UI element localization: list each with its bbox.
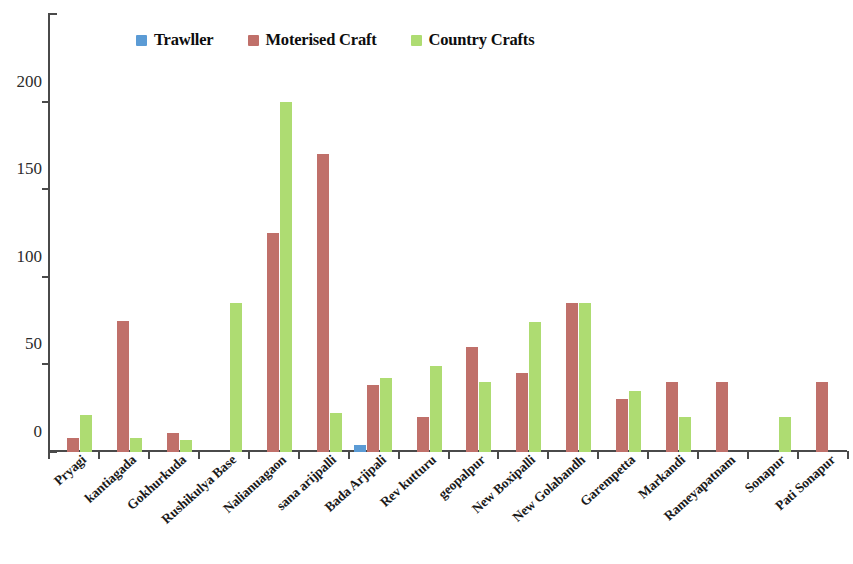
bar-group <box>547 14 597 452</box>
y-axis-tick-label: 100 <box>4 246 42 266</box>
plot-area: 050100150200250 <box>48 14 847 452</box>
y-axis-tick-label: 250 <box>4 0 42 4</box>
legend-label: Moterised Craft <box>266 30 377 50</box>
bar[interactable] <box>117 321 129 452</box>
bar-group <box>747 14 797 452</box>
legend-item[interactable]: Trawller <box>136 30 214 50</box>
chart-legend: TrawllerMoterised CraftCountry Crafts <box>136 30 534 50</box>
y-axis-tick-label: 0 <box>4 422 42 442</box>
bar[interactable] <box>516 373 528 452</box>
bar-group <box>348 14 398 452</box>
y-axis-tick-label: 50 <box>4 334 42 354</box>
bar[interactable] <box>529 322 541 452</box>
bar[interactable] <box>230 303 242 452</box>
legend-label: Trawller <box>154 30 214 50</box>
bar[interactable] <box>579 303 591 452</box>
bar-group <box>497 14 547 452</box>
bar-group <box>398 14 448 452</box>
x-axis-label-text: Sonapur <box>742 452 789 497</box>
legend-label: Country Crafts <box>429 30 535 50</box>
bar-group <box>697 14 747 452</box>
bar-group <box>198 14 248 452</box>
y-axis-tick-label: 200 <box>4 71 42 91</box>
bar-group <box>298 14 348 452</box>
legend-swatch-icon <box>248 35 259 46</box>
y-axis-tick-label: 150 <box>4 159 42 179</box>
bar[interactable] <box>816 382 828 452</box>
x-axis-label-text: Pryagi <box>51 452 90 489</box>
legend-swatch-icon <box>136 35 147 46</box>
bar-group <box>448 14 498 452</box>
legend-item[interactable]: Moterised Craft <box>248 30 377 50</box>
bar[interactable] <box>67 438 79 452</box>
bar-group <box>248 14 298 452</box>
bar-group <box>48 14 98 452</box>
bar-groups <box>48 14 847 452</box>
legend-item[interactable]: Country Crafts <box>411 30 535 50</box>
bar-group <box>797 14 847 452</box>
legend-swatch-icon <box>411 35 422 46</box>
bar-group <box>597 14 647 452</box>
bar-group <box>98 14 148 452</box>
x-axis-labels: PryagikantiagadaGokhurkudaRushikulya Bas… <box>48 452 847 564</box>
bar-group <box>647 14 697 452</box>
bar-group <box>148 14 198 452</box>
